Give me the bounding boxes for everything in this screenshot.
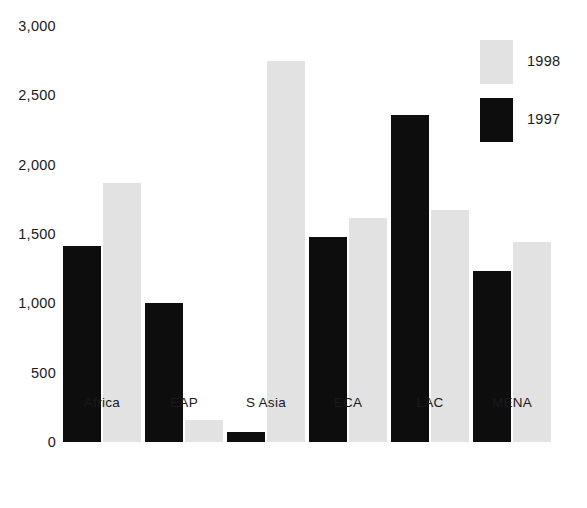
y-axis-tick-label: 2,000 [0, 157, 56, 173]
legend-label: 1997 [527, 111, 560, 127]
bar-group: S Asia [227, 26, 305, 442]
y-axis: 05001,0001,5002,0002,5003,000 [0, 0, 56, 508]
y-axis-tick-label: 500 [0, 365, 56, 381]
x-axis-category-label: MENA [452, 395, 572, 410]
legend-swatch-icon [480, 40, 513, 84]
bar-group: Africa [63, 26, 141, 442]
legend-label: 1998 [527, 53, 560, 69]
bar-africa-1997 [63, 246, 101, 442]
y-axis-tick-label: 0 [0, 434, 56, 450]
y-axis-tick-label: 1,000 [0, 295, 56, 311]
bar-s-asia-1998 [267, 61, 305, 442]
chart-legend: 19981997 [480, 40, 585, 156]
y-axis-tick-label: 2,500 [0, 87, 56, 103]
legend-item-1997: 1997 [480, 98, 585, 148]
legend-swatch-icon [480, 98, 513, 142]
bar-group: ECA [309, 26, 387, 442]
bar-eap-1998 [185, 420, 223, 442]
bar-chart: 05001,0001,5002,0002,5003,000 AfricaEAPS… [0, 0, 587, 508]
bar-group: LAC [391, 26, 469, 442]
legend-item-1998: 1998 [480, 40, 585, 90]
y-axis-tick-label: 3,000 [0, 18, 56, 34]
y-axis-tick-label: 1,500 [0, 226, 56, 242]
bar-group: EAP [145, 26, 223, 442]
bar-eap-1997 [145, 303, 183, 442]
bar-lac-1997 [391, 115, 429, 442]
bar-s-asia-1997 [227, 432, 265, 442]
bar-mena-1998 [513, 242, 551, 442]
bar-mena-1997 [473, 271, 511, 442]
bar-eca-1997 [309, 237, 347, 442]
